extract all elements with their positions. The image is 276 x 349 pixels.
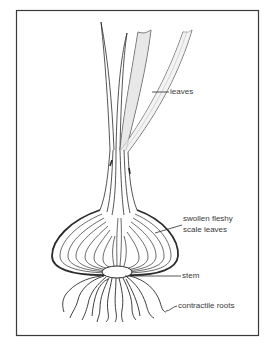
- label-scale-leaves-line2: scale leaves: [183, 225, 227, 234]
- onion-bulb-diagram: [0, 0, 276, 349]
- label-contractile-roots: contractile roots: [178, 301, 234, 310]
- contractile-roots: [63, 276, 166, 322]
- label-leaves: leaves: [170, 87, 193, 96]
- leader-lines: [125, 92, 182, 311]
- bulb-neck: [100, 150, 137, 215]
- roots-leader: [166, 306, 177, 311]
- bulb-scale-leaves: [52, 210, 178, 275]
- label-stem: stem: [182, 271, 199, 280]
- label-scale-leaves-line1: swollen fleshy: [183, 214, 233, 223]
